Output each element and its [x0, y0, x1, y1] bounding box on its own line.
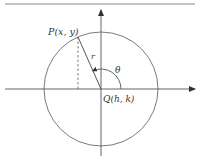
radius-line: [78, 37, 101, 89]
circle-diagram: P(x, y) r θ Q(h, k): [0, 0, 200, 163]
center-label: Q(h, k): [103, 94, 135, 104]
theta-label: θ: [115, 65, 121, 75]
point-label: P(x, y): [47, 26, 79, 37]
radius-label: r: [91, 52, 96, 61]
